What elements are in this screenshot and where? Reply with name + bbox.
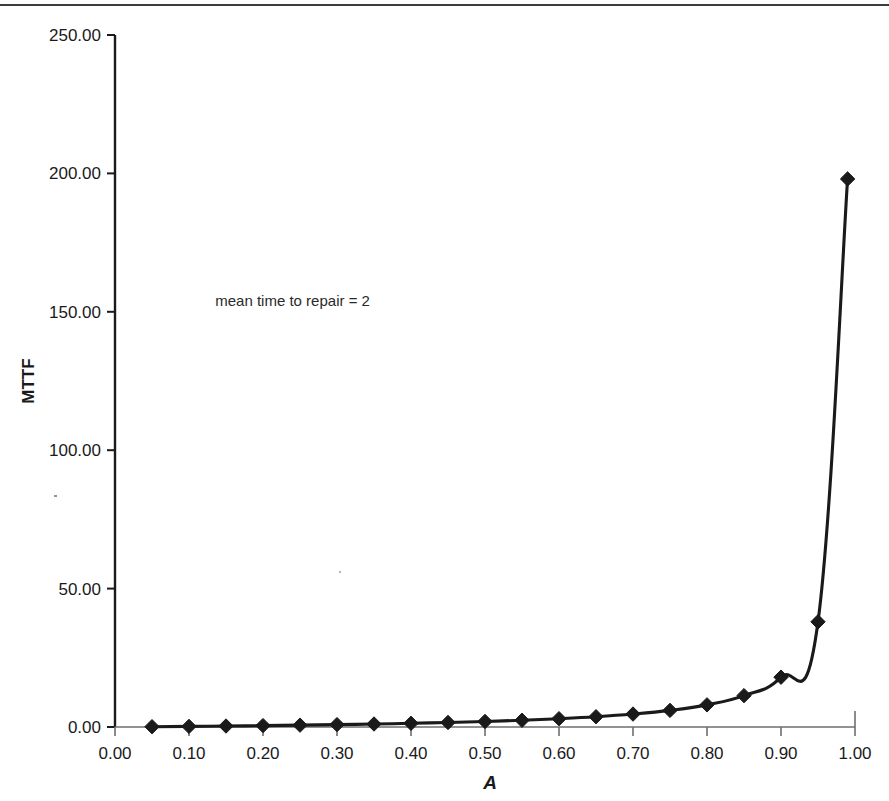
data-point-marker [219,719,233,733]
x-axis-tick-label: 0.20 [246,744,279,763]
x-axis-tick-label: 1.00 [838,744,871,763]
data-point-marker [840,172,854,186]
y-axis-tick-label: 50.00 [58,580,101,599]
x-axis-tick-label: 0.60 [542,744,575,763]
data-point-marker [663,703,677,717]
y-axis: 0.0050.00100.00150.00200.00250.00 [49,26,115,737]
data-point-marker [182,719,196,733]
chart-figure: 0.0050.00100.00150.00200.00250.00 0.000.… [0,0,889,801]
data-point-marker [700,698,714,712]
chart-annotation: mean time to repair = 2 [215,292,370,309]
data-point-marker [256,718,270,732]
data-point-marker [552,711,566,725]
x-axis-tick-label: 0.90 [764,744,797,763]
data-series-mttf [145,172,855,734]
plot-canvas: 0.0050.00100.00150.00200.00250.00 0.000.… [0,0,889,801]
x-axis-tick-label: 0.10 [172,744,205,763]
data-point-marker [626,707,640,721]
x-axis-tick-label: 0.80 [690,744,723,763]
y-axis-tick-label: 200.00 [49,164,101,183]
x-axis-tick-label: 0.70 [616,744,649,763]
series-line [152,179,848,727]
data-point-marker [145,719,159,733]
y-axis-tick-label: 250.00 [49,26,101,45]
x-axis-tick-label: 0.50 [468,744,501,763]
x-axis-tick-label: 0.30 [320,744,353,763]
x-axis-title: A [482,772,497,793]
y-axis-tick-label: 150.00 [49,303,101,322]
data-point-marker [404,716,418,730]
x-axis-tick-label: 0.00 [98,744,131,763]
data-point-marker [330,717,344,731]
data-point-marker [589,710,603,724]
y-axis-tick-label: 100.00 [49,441,101,460]
data-point-marker [293,718,307,732]
y-axis-title: MTTF [19,358,38,403]
data-point-marker [811,615,825,629]
data-point-marker [367,717,381,731]
data-point-marker [515,713,529,727]
annotation-label: mean time to repair = 2 [215,292,370,309]
x-axis-tick-label: 0.40 [394,744,427,763]
data-point-marker [737,688,751,702]
y-axis-tick-label: 0.00 [68,718,101,737]
